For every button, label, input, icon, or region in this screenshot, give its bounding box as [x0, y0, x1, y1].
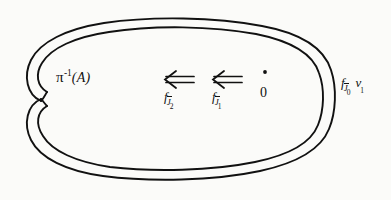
- double-arrow-icon-1: [213, 71, 242, 88]
- label-preimage: π-1(A): [56, 69, 91, 85]
- fv-subscript-index: 0: [347, 88, 351, 97]
- pi-argument: (A): [72, 70, 91, 85]
- f-subscript-index-2: 2: [170, 102, 174, 111]
- label-origin-zero: 0: [260, 86, 267, 100]
- arrows-svg: [0, 0, 391, 200]
- label-map-f-J1: fJ1: [212, 89, 223, 109]
- origin-dot-icon: [263, 70, 267, 74]
- figure-canvas: π-1(A) fJ2 fJ1 0 fJ0v1: [0, 0, 391, 200]
- double-arrow-icon-2: [165, 71, 194, 88]
- label-outer-f-J0-v1: fJ0v1: [341, 76, 365, 95]
- f-subscript-index-1: 1: [218, 102, 222, 111]
- fv-vector-index: 1: [360, 86, 364, 95]
- pi-exponent: -1: [64, 68, 72, 78]
- label-map-f-J2: fJ2: [164, 89, 175, 109]
- pi-symbol: π: [56, 69, 64, 85]
